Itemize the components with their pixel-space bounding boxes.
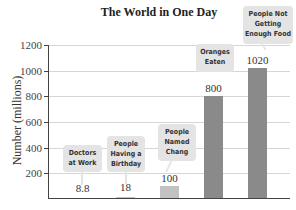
- callout-line: People: [160, 127, 194, 137]
- callout-line: Chang: [160, 147, 194, 157]
- callout-pointer-doctors: [81, 171, 83, 185]
- plot-area: 1200 1000 800 600 400 200 8.8 18 100 800…: [48, 45, 290, 199]
- callout-people-named-chang: People Named Chang: [158, 124, 196, 161]
- value-label-food: 1020: [238, 54, 278, 66]
- callout-people-having-birthday: People Having a Birthday: [107, 136, 145, 172]
- callout-line: Birthday: [109, 159, 143, 169]
- callout-oranges-eaten: Oranges Eaten: [196, 44, 234, 72]
- tick-label-800: 800: [8, 90, 42, 102]
- y-axis: [48, 45, 49, 199]
- x-axis: [48, 198, 290, 199]
- tick-label-1200: 1200: [8, 39, 42, 51]
- callout-line: Doctors: [65, 148, 100, 158]
- bar-people-not-enough-food: [248, 68, 267, 199]
- callout-line: Oranges: [198, 47, 232, 57]
- tick-label-1000: 1000: [8, 65, 42, 77]
- callout-line: Named: [160, 137, 194, 147]
- tick-label-200: 200: [8, 167, 42, 179]
- callout-line: Eaten: [198, 57, 232, 67]
- value-label-chang: 100: [150, 172, 190, 184]
- tick-label-600: 600: [8, 116, 42, 128]
- callout-line: Enough Food: [245, 29, 291, 39]
- tick-label-400: 400: [8, 142, 42, 154]
- callout-line: Having a: [109, 149, 143, 159]
- callout-line: Getting: [245, 19, 291, 29]
- callout-line: People Not: [245, 9, 291, 19]
- bar-oranges-eaten: [204, 96, 223, 199]
- gridline-1200: [48, 45, 290, 46]
- callout-people-not-enough-food: People Not Getting Enough Food: [243, 6, 293, 44]
- callout-doctors-at-work: Doctors at Work: [63, 145, 102, 172]
- value-label-oranges: 800: [194, 82, 234, 94]
- callout-line: People: [109, 139, 143, 149]
- callout-pointer-birthday: [125, 171, 127, 184]
- callout-line: at Work: [65, 158, 100, 168]
